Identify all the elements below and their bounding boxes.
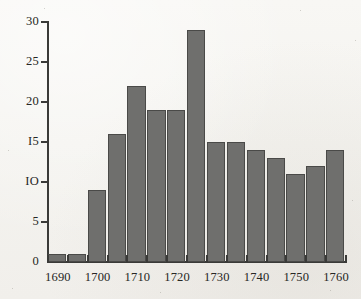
x-axis-tick	[67, 255, 69, 263]
y-axis-tick	[41, 101, 48, 103]
bar	[127, 86, 145, 262]
y-axis-tick	[41, 141, 48, 143]
y-axis-tick	[41, 21, 48, 23]
bar	[306, 166, 324, 262]
bar	[88, 190, 106, 262]
y-axis-tick-label: 25	[0, 55, 39, 68]
y-axis-tick-label: 20	[0, 95, 39, 108]
x-axis-tick	[285, 255, 287, 263]
plot-area	[48, 22, 346, 262]
bar	[207, 142, 225, 262]
x-axis-tick	[266, 255, 268, 263]
x-axis-tick	[166, 255, 168, 263]
ink-speck	[352, 200, 353, 201]
bar	[167, 110, 185, 262]
ink-speck	[330, 290, 331, 291]
y-axis-tick-label: 30	[0, 15, 39, 28]
bar-chart: 05IOI5202530 169017001710172017301740175…	[0, 0, 361, 299]
x-axis-tick	[146, 255, 148, 263]
ink-speck	[300, 10, 301, 11]
x-axis-tick	[107, 255, 109, 263]
bar	[227, 142, 245, 262]
x-axis-tick-label: 1760	[311, 271, 361, 284]
y-axis-tick-label: 5	[0, 215, 39, 228]
x-axis-tick	[126, 255, 128, 263]
bar	[68, 254, 86, 262]
y-axis-tick-label: IO	[0, 175, 39, 188]
x-axis-tick	[246, 255, 248, 263]
bar	[286, 174, 304, 262]
ink-speck	[8, 150, 9, 151]
y-axis-tick-label: I5	[0, 135, 39, 148]
x-axis-tick	[325, 255, 327, 263]
x-axis-tick	[87, 255, 89, 263]
ink-speck	[160, 292, 161, 293]
bar	[48, 254, 66, 262]
bar	[247, 150, 265, 262]
y-axis-tick-label: 0	[0, 255, 39, 268]
x-axis-tick	[186, 255, 188, 263]
x-axis-tick	[345, 255, 347, 263]
bar	[108, 134, 126, 262]
y-axis-tick	[41, 61, 48, 63]
x-axis-tick	[206, 255, 208, 263]
bar	[267, 158, 285, 262]
ink-speck	[12, 288, 13, 289]
x-axis-tick	[305, 255, 307, 263]
x-axis-tick	[47, 255, 49, 263]
ink-speck	[44, 8, 45, 9]
bar	[326, 150, 344, 262]
x-axis-tick	[226, 255, 228, 263]
bar	[147, 110, 165, 262]
y-axis-tick	[41, 181, 48, 183]
bar	[187, 30, 205, 262]
y-axis-tick	[41, 221, 48, 223]
ink-speck	[355, 40, 356, 41]
